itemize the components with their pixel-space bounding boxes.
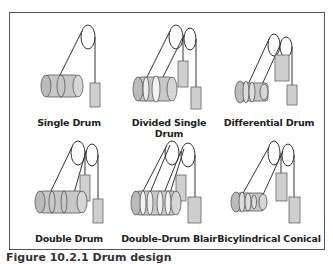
panel-differential-drum: Differential Drum	[216, 17, 322, 135]
panel-label: Bicylindrical Conical	[216, 233, 322, 244]
panel-bicylindrical-conical: Bicylindrical Conical	[216, 135, 322, 253]
bicylindrical-conical-illustration	[216, 135, 322, 231]
divided-single-drum-illustration	[116, 17, 222, 117]
panel-double-drum: Double Drum	[16, 135, 122, 253]
panel-double-drum-blair: Double-Drum Blair	[116, 135, 222, 253]
differential-drum-illustration	[216, 17, 322, 117]
panel-label: Differential Drum	[216, 117, 322, 128]
panel-label: Double-Drum Blair	[116, 233, 222, 244]
panel-divided-single-drum: Divided Single Drum	[116, 17, 222, 135]
double-drum-blair-illustration	[116, 135, 222, 231]
diagram-frame: Single Drum Divided Single Drum	[9, 12, 325, 250]
panel-label: Single Drum	[16, 117, 122, 128]
single-drum-illustration	[16, 17, 122, 117]
figure-caption: Figure 10.2.1 Drum design	[6, 251, 172, 264]
panel-label: Double Drum	[16, 233, 122, 244]
double-drum-illustration	[16, 135, 122, 231]
panel-single-drum: Single Drum	[16, 17, 122, 135]
